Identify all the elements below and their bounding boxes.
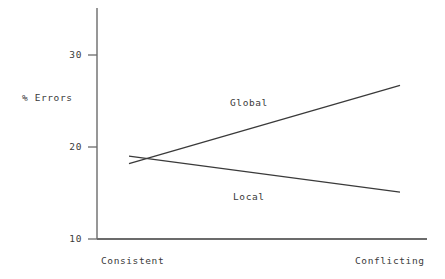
series-label-local: Local bbox=[233, 192, 265, 202]
series-label-global: Global bbox=[230, 98, 268, 108]
line-chart: % Errors 30 20 10 Consistent Conflicting… bbox=[0, 0, 445, 279]
y-tick-label-10: 10 bbox=[58, 234, 82, 244]
x-tick-label-conflicting: Conflicting bbox=[355, 256, 425, 266]
y-tick-label-30: 30 bbox=[58, 50, 82, 60]
series-line-local bbox=[129, 156, 400, 192]
x-tick-label-consistent: Consistent bbox=[101, 256, 164, 266]
y-axis-title: % Errors bbox=[22, 93, 73, 103]
y-tick-label-20: 20 bbox=[58, 142, 82, 152]
